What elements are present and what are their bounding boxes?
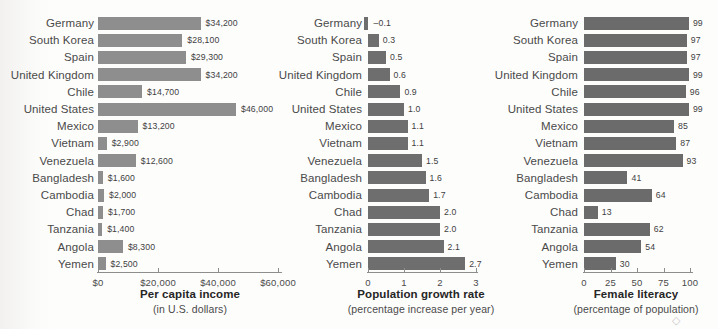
bar-row: Germany–0.1 [290,14,495,32]
bar-row: Chile0.9 [290,83,495,101]
category-label-chad: Chad [334,203,362,221]
bar-value-label: 64 [656,186,666,204]
category-label-tanzania: Tanzania [531,220,578,238]
bar-row: Vietnam1.1 [290,134,495,152]
page-corner-mark: ◇ [672,314,680,327]
category-label-chile: Chile [551,83,578,101]
bar-value-label: 13 [602,203,612,221]
bar [584,34,687,47]
bar-row: Bangladesh1.6 [290,169,495,187]
bar-value-label: 2.1 [448,238,460,256]
bar-value-label: 0.6 [394,66,406,84]
bar [584,223,650,236]
category-label-yemen: Yemen [542,255,578,273]
bar-row: Angola2.1 [290,238,495,256]
bar-value-label: $2,500 [111,255,138,273]
x-tick [404,268,405,272]
bar-value-label: 85 [678,117,688,135]
bar [98,17,201,30]
bar-value-label: 1.7 [433,186,445,204]
bar-row: Chile$14,700 [0,83,290,101]
bar-value-label: 1.6 [430,169,442,187]
figure-root: Germany$34,200South Korea$28,100Spain$29… [0,0,718,329]
category-label-spain: Spain [64,48,94,66]
bar [368,103,404,116]
bar [98,206,103,219]
bar-row: Vietnam87 [495,134,718,152]
bar-row: Tanzania2.0 [290,220,495,238]
bar [584,17,689,30]
category-label-mexico: Mexico [57,117,94,135]
x-tick-label: 75 [658,277,669,288]
x-tick [637,268,638,272]
bar [584,68,689,81]
x-tick-label: $0 [93,277,104,288]
category-label-yemen: Yemen [58,255,94,273]
bar-row: Spain$29,300 [0,48,290,66]
bar-row: Mexico1.1 [290,117,495,135]
bar-row: Angola$8,300 [0,238,290,256]
x-tick-label: 3 [473,277,478,288]
bar-value-label: 2.0 [444,203,456,221]
bar-value-label: $34,200 [206,14,238,32]
category-label-spain: Spain [548,48,578,66]
x-tick [664,268,665,272]
category-label-bangladesh: Bangladesh [300,169,362,187]
category-label-germany: Germany [530,14,578,32]
bar [368,223,440,236]
bar [368,137,408,150]
bar [584,189,652,202]
bar [98,257,106,270]
bar-row: Venezuela1.5 [290,152,495,170]
bar-value-label: 99 [693,14,703,32]
category-label-angola: Angola [58,238,94,256]
bar-row: Spain97 [495,48,718,66]
category-label-venezuela: Venezuela [307,152,362,170]
category-label-tanzania: Tanzania [47,220,94,238]
bar [98,154,136,167]
bar-value-label: 54 [645,238,655,256]
bar-row: Mexico85 [495,117,718,135]
bar-value-label: 41 [631,169,641,187]
x-tick [158,268,159,272]
category-label-united-states: United States [24,100,94,118]
bar-row: Chile96 [495,83,718,101]
bar [368,171,426,184]
bar-value-label: $13,200 [143,117,175,135]
bar-value-label: 99 [693,66,703,84]
bar [98,34,182,47]
bar [584,154,683,167]
category-label-vietnam: Vietnam [535,134,578,152]
bar-value-label: –0.1 [374,14,391,32]
bar-value-label: $2,000 [109,186,136,204]
category-label-yemen: Yemen [326,255,362,273]
x-tick [690,268,691,272]
bar-value-label: 30 [620,255,630,273]
bar-value-label: 87 [680,134,690,152]
category-label-angola: Angola [326,238,362,256]
chart-title: Per capita income [140,288,240,300]
chart-subtitle: (percentage increase per year) [348,303,495,315]
category-label-angola: Angola [542,238,578,256]
bar [584,206,598,219]
bar [98,223,102,236]
bar [98,85,142,98]
x-tick-label: 0 [581,277,586,288]
bar-row: United States1.0 [290,100,495,118]
bar [368,120,408,133]
bar-value-label: $46,000 [241,100,273,118]
bar-row: South Korea0.3 [290,31,495,49]
category-label-south-korea: South Korea [29,31,94,49]
bar-row: Spain0.5 [290,48,495,66]
x-tick [98,268,99,272]
bar-row: United Kingdom$34,200 [0,66,290,84]
x-tick-label: 100 [682,277,698,288]
category-label-chad: Chad [66,203,94,221]
bar-row: Vietnam$2,900 [0,134,290,152]
bar [368,240,444,253]
bar-value-label: 1.0 [408,100,420,118]
bar-value-label: 0.9 [404,83,416,101]
bar [368,154,422,167]
bar [584,137,676,150]
bar-value-label: 97 [691,31,701,49]
